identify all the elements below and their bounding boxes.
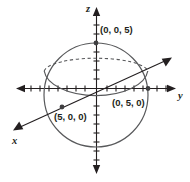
label-axis-z: z (85, 3, 91, 14)
label-point-5-0-0: (5, 0, 0) (54, 111, 87, 122)
point-marker-0-5-0 (146, 86, 151, 91)
coordinate-sphere-svg: (0, 0, 5) (0, 5, 0) (5, 0, 0) z y x (0, 0, 190, 182)
z-axis-positive-arrowhead (93, 7, 100, 16)
x-axis-line (18, 60, 167, 128)
label-point-0-0-5: (0, 0, 5) (100, 24, 133, 35)
point-marker-0-0-5 (94, 41, 99, 46)
y-axis-negative-arrowhead (16, 85, 25, 92)
label-axis-y: y (176, 90, 183, 101)
label-point-0-5-0: (0, 5, 0) (112, 97, 145, 108)
z-axis-negative-arrowhead (93, 165, 100, 174)
sphere-diagram-figure: (0, 0, 5) (0, 5, 0) (5, 0, 0) z y x (0, 0, 190, 182)
label-axis-x: x (11, 135, 17, 146)
y-axis-positive-arrowhead (167, 85, 176, 92)
point-marker-5-0-0 (60, 105, 65, 110)
